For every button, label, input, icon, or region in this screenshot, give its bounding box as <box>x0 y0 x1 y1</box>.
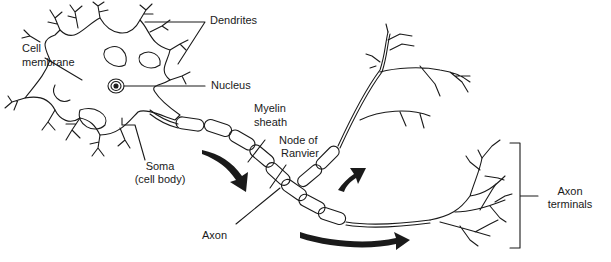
label-soma-line2: (cell body) <box>122 173 198 186</box>
dendrites <box>5 2 190 156</box>
label-soma-line1: Soma <box>126 160 194 173</box>
neuron-diagram <box>0 0 611 262</box>
label-axon: Axon <box>202 229 227 242</box>
nucleus <box>108 79 124 93</box>
label-axon-terminals-line2: terminals <box>540 198 600 211</box>
label-node-of-ranvier-line1: Node of <box>279 134 318 147</box>
label-cell-membrane-line2: membrane <box>22 56 75 69</box>
axon-terminals <box>430 140 512 246</box>
axon-collateral <box>295 24 470 189</box>
label-cell-membrane-line1: Cell <box>22 42 41 55</box>
label-node-of-ranvier-line2: Ranvier <box>281 147 319 160</box>
label-nucleus: Nucleus <box>211 79 251 92</box>
soma-outline <box>25 18 180 135</box>
label-dendrites: Dendrites <box>210 14 257 27</box>
label-myelin-line2: sheath <box>254 116 287 129</box>
label-axon-terminals-line1: Axon <box>540 185 600 198</box>
signal-arrows <box>202 150 410 250</box>
label-myelin-line1: Myelin <box>254 102 286 115</box>
